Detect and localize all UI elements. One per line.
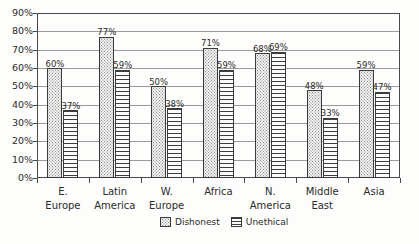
x-axis-category-label: Africa	[193, 185, 245, 199]
category-label-line: Europe	[141, 199, 193, 213]
bar-dishonest: 77%	[99, 37, 114, 178]
y-axis-tick-label: 80%	[0, 26, 33, 36]
bar-value-label: 59%	[217, 61, 236, 70]
x-axis-category-label: LatinAmerica	[89, 185, 141, 213]
bar-dishonest: 71%	[203, 48, 218, 178]
category-label-line: America	[244, 199, 296, 213]
category-label-line: America	[89, 199, 141, 213]
bar-dishonest: 50%	[151, 86, 166, 178]
legend-swatch-unethical-icon	[231, 217, 242, 227]
bar-unethical: 37%	[63, 110, 78, 178]
bar-dishonest: 59%	[359, 70, 374, 178]
bar-value-label: 60%	[45, 60, 64, 69]
chart-container: 0%10%20%30%40%50%60%70%80%90% 60%37%77%5…	[0, 0, 419, 244]
bar-value-label: 50%	[149, 78, 168, 87]
bar-unethical: 47%	[375, 92, 390, 178]
x-axis-tick-mark	[296, 178, 297, 183]
bar-value-label: 48%	[305, 82, 324, 91]
x-axis-category-label: E.Europe	[37, 185, 89, 213]
legend-item-dishonest[interactable]: Dishonest	[160, 217, 220, 227]
bar-unethical: 59%	[115, 70, 130, 178]
bar-value-label: 69%	[269, 43, 288, 52]
y-axis-tick-label: 10%	[0, 155, 33, 165]
category-label-line: Africa	[193, 185, 245, 199]
category-label-line: Latin	[89, 185, 141, 199]
bar-dishonest: 60%	[47, 68, 62, 178]
x-axis-category-label: Asia	[348, 185, 400, 199]
bar-value-label: 71%	[201, 39, 220, 48]
bar-unethical: 59%	[219, 70, 234, 178]
bar-value-label: 37%	[61, 102, 80, 111]
legend-item-unethical[interactable]: Unethical	[231, 217, 289, 227]
x-axis-category-label: N.America	[244, 185, 296, 213]
legend-label-unethical: Unethical	[246, 218, 289, 227]
y-axis-tick-label: 30%	[0, 118, 33, 128]
y-axis-tick-label: 50%	[0, 81, 33, 91]
bar-value-label: 59%	[357, 61, 376, 70]
y-axis-tick-label: 20%	[0, 136, 33, 146]
legend-label-dishonest: Dishonest	[175, 218, 220, 227]
category-label-line: Asia	[348, 185, 400, 199]
category-label-line: N.	[244, 185, 296, 199]
y-axis-tick-label: 70%	[0, 45, 33, 55]
bars-layer: 60%37%77%59%50%38%71%59%68%69%48%33%59%4…	[37, 13, 400, 178]
bar-value-label: 33%	[321, 109, 340, 118]
bar-value-label: 59%	[113, 61, 132, 70]
bar-unethical: 69%	[271, 52, 286, 179]
category-label-line: East	[296, 199, 348, 213]
category-label-line: Middle	[296, 185, 348, 199]
x-axis-tick-mark	[193, 178, 194, 183]
x-axis-category-label: MiddleEast	[296, 185, 348, 213]
category-label-line: W.	[141, 185, 193, 199]
bar-dishonest: 48%	[307, 90, 322, 178]
category-label-line: E.	[37, 185, 89, 199]
y-axis-tick-label: 0%	[0, 173, 33, 183]
chart-legend: Dishonest Unethical	[160, 217, 288, 227]
x-axis-tick-mark	[348, 178, 349, 183]
y-axis: 0%10%20%30%40%50%60%70%80%90%	[0, 0, 33, 244]
x-axis-category-label: W.Europe	[141, 185, 193, 213]
bar-unethical: 38%	[167, 108, 182, 178]
category-label-line: Europe	[37, 199, 89, 213]
y-axis-tick-label: 40%	[0, 100, 33, 110]
x-axis-tick-mark	[37, 178, 38, 183]
x-axis-tick-mark	[400, 178, 401, 183]
bar-value-label: 47%	[373, 83, 392, 92]
bar-value-label: 77%	[97, 28, 116, 37]
bar-unethical: 33%	[323, 118, 338, 179]
x-axis-tick-mark	[141, 178, 142, 183]
x-axis-tick-mark	[89, 178, 90, 183]
y-axis-tick-label: 90%	[0, 8, 33, 18]
bar-value-label: 38%	[165, 100, 184, 109]
x-axis-ticks	[37, 178, 400, 183]
bar-dishonest: 68%	[255, 53, 270, 178]
y-axis-tick-label: 60%	[0, 63, 33, 73]
legend-swatch-dishonest-icon	[160, 217, 171, 227]
x-axis-tick-mark	[244, 178, 245, 183]
